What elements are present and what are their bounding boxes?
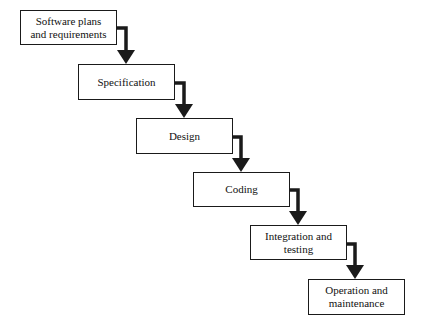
stage-label: Design <box>169 130 200 143</box>
stage-label: Coding <box>225 183 257 196</box>
stage-label: Integration and testing <box>265 230 332 256</box>
stage-label: Software plans and requirements <box>30 15 106 41</box>
stage-label: Operation and maintenance <box>325 284 388 310</box>
stage-operation-maintenance: Operation and maintenance <box>308 279 405 315</box>
stage-software-plans: Software plans and requirements <box>20 10 117 45</box>
arrow-plans-to-spec <box>117 28 135 64</box>
waterfall-diagram: Software plans and requirements Specific… <box>0 0 422 330</box>
arrow-spec-to-design <box>175 83 193 118</box>
stage-label: Specification <box>97 76 155 89</box>
arrow-coding-to-integration <box>289 190 307 225</box>
stage-integration-testing: Integration and testing <box>250 225 347 260</box>
stage-specification: Specification <box>78 64 175 100</box>
stage-design: Design <box>136 118 233 154</box>
arrow-integration-to-operation <box>346 244 364 279</box>
stage-coding: Coding <box>193 172 290 207</box>
arrow-design-to-coding <box>232 137 250 172</box>
